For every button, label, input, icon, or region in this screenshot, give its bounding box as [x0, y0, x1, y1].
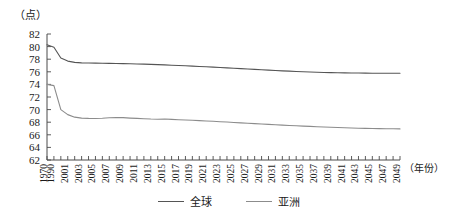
- legend-item-asia: 亚洲: [246, 193, 300, 209]
- data-series-group: [47, 45, 400, 129]
- x-axis-tick-labels: 1970199020012003200520072009201120132015…: [39, 164, 402, 183]
- x-axis-tick-label: 1990: [46, 164, 56, 183]
- plot-area: 6264666870727476788082 19701990200120032…: [0, 0, 458, 219]
- x-axis-tick-label: 2031: [267, 164, 277, 183]
- x-axis-tick-label: 2003: [74, 164, 84, 183]
- chart-legend: 全球 亚洲: [0, 193, 458, 209]
- x-axis-tick-label: 2029: [254, 164, 264, 183]
- x-axis-tick-label: 2043: [350, 164, 360, 183]
- legend-swatch-global: [158, 201, 184, 202]
- y-axis-tick-marks: [47, 34, 51, 160]
- x-axis-tick-label: 2013: [143, 164, 153, 183]
- x-axis-tick-label: 2011: [129, 164, 139, 183]
- x-axis-tick-label: 2009: [115, 164, 125, 183]
- y-axis-tick-labels: 6264666870727476788082: [29, 28, 41, 166]
- x-axis-tick-label: 2007: [101, 164, 111, 183]
- x-axis-tick-label: 2047: [378, 164, 388, 183]
- x-axis-tick-marks: [47, 156, 400, 160]
- y-axis-tick-label: 82: [29, 28, 40, 40]
- x-axis-tick-label: 2041: [337, 164, 347, 183]
- x-axis-tick-label: 2045: [364, 164, 374, 183]
- x-axis-tick-label: 2015: [157, 164, 167, 183]
- y-axis-tick-label: 70: [29, 104, 41, 116]
- legend-swatch-asia: [246, 201, 272, 202]
- y-axis-tick-label: 66: [29, 129, 41, 141]
- x-axis-tick-label: 2017: [171, 164, 181, 183]
- y-axis-tick-label: 78: [29, 53, 41, 65]
- x-axis-tick-label: 2023: [212, 164, 222, 183]
- x-axis-tick-label: 2037: [309, 164, 319, 183]
- line-chart: （点） （年份） 6264666870727476788082 19701990…: [0, 0, 458, 219]
- y-axis-tick-label: 74: [29, 78, 41, 90]
- series-line-asia: [47, 84, 400, 128]
- x-axis-tick-label: 2005: [87, 164, 97, 183]
- y-axis-tick-label: 64: [29, 141, 41, 153]
- x-axis-tick-label: 2033: [281, 164, 291, 183]
- x-axis-tick-label: 2049: [392, 164, 402, 183]
- x-axis-tick-label: 2021: [198, 164, 208, 183]
- x-axis-tick-label: 2019: [184, 164, 194, 183]
- x-axis-tick-label: 2027: [240, 164, 250, 183]
- legend-label-asia: 亚洲: [278, 193, 300, 209]
- x-axis-tick-label: 2001: [60, 164, 70, 183]
- x-axis-tick-label: 2039: [323, 164, 333, 183]
- x-axis-tick-label: 2035: [295, 164, 305, 183]
- legend-label-global: 全球: [190, 193, 212, 209]
- y-axis-tick-label: 68: [29, 116, 41, 128]
- y-axis-tick-label: 80: [29, 41, 41, 53]
- x-axis-tick-label: 2025: [226, 164, 236, 183]
- legend-item-global: 全球: [158, 193, 212, 209]
- series-line-global: [47, 45, 400, 74]
- y-axis-tick-label: 76: [29, 66, 41, 78]
- y-axis-tick-label: 72: [29, 91, 40, 103]
